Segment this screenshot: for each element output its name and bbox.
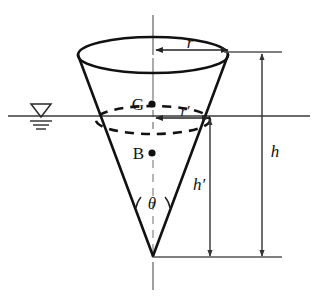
centroid-label: G bbox=[132, 95, 144, 114]
dimension-r-prime-label: r′ bbox=[180, 103, 190, 119]
apex-angle-label: θ bbox=[148, 194, 156, 213]
buoyancy-dot-icon bbox=[148, 149, 155, 156]
dimension-h-label: h bbox=[271, 142, 280, 161]
centroid-dot-icon bbox=[148, 100, 155, 107]
dimension-h-prime-label: h′ bbox=[193, 175, 206, 194]
buoyancy-label: B bbox=[133, 144, 144, 163]
figure-container: r r′ G B θ h′ bbox=[0, 0, 317, 302]
dimension-r-label: r bbox=[187, 33, 194, 52]
cone-buoyancy-diagram: r r′ G B θ h′ bbox=[0, 0, 317, 302]
